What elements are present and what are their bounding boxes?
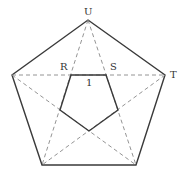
label-S: S (110, 61, 117, 72)
outer-pentagon (12, 20, 165, 165)
label-U: U (84, 6, 92, 17)
pentagon-diagram: U T R S 1 (0, 0, 186, 175)
label-segment-length: 1 (86, 77, 92, 88)
label-T: T (170, 69, 177, 80)
label-R: R (60, 61, 68, 72)
